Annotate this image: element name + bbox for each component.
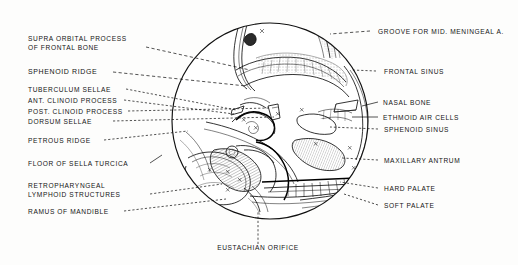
label-retropharyngeal-lymphoid: RETROPHARYNGEAL LYMPHOID STRUCTURES — [28, 181, 121, 200]
leader-soft-palate — [344, 194, 378, 205]
label-floor-of-sella-turcica: FLOOR OF SELLA TURCICA — [28, 159, 128, 168]
leader-floor-of-sella-turcica — [150, 155, 162, 163]
figure-canvas: SUPRA ORBITAL PROCESS OF FRONTAL BONE SP… — [0, 0, 518, 265]
label-post-clinoid-process: POST. CLINOID PROCESS — [28, 107, 123, 116]
leader-frontal-sinus — [352, 70, 376, 71]
label-retropharyngeal-line2: LYMPHOID STRUCTURES — [28, 190, 121, 199]
label-petrous-ridge: PETROUS RIDGE — [28, 136, 91, 145]
label-retropharyngeal-line1: RETROPHARYNGEAL — [28, 181, 121, 190]
label-sphenoid-ridge: SPHENOID RIDGE — [28, 67, 97, 76]
label-eustachian-orifice: EUSTACHIAN ORIFICE — [202, 243, 314, 252]
label-nasal-bone: NASAL BONE — [383, 98, 431, 107]
label-supraorbital-process: SUPRA ORBITAL PROCESS OF FRONTAL BONE — [28, 34, 127, 53]
leader-groove-mid-meningeal — [330, 31, 370, 34]
label-ramus-of-mandible: RAMUS OF MANDIBLE — [28, 207, 109, 216]
label-sphenoid-sinus: SPHENOID SINUS — [384, 125, 449, 134]
label-ethmoid-air-cells: ETHMOID AIR CELLS — [383, 113, 459, 122]
label-supraorbital-process-line2: OF FRONTAL BONE — [28, 43, 127, 52]
label-tuberculum-sellae: TUBERCULUM SELLAE — [28, 85, 111, 94]
label-supraorbital-process-line1: SUPRA ORBITAL PROCESS — [28, 34, 127, 43]
label-frontal-sinus: FRONTAL SINUS — [384, 67, 444, 76]
label-ant-clinoid-process: ANT. CLINOID PROCESS — [28, 96, 117, 105]
label-hard-palate: HARD PALATE — [384, 184, 436, 193]
label-maxillary-antrum: MAXILLARY ANTRUM — [384, 156, 460, 165]
leader-ramus-of-mandible — [124, 199, 226, 211]
label-soft-palate: SOFT PALATE — [384, 201, 434, 210]
label-groove-mid-meningeal: GROOVE FOR MID. MENINGEAL A. — [378, 27, 504, 36]
label-dorsum-sellae: DORSUM SELLAE — [28, 117, 92, 126]
